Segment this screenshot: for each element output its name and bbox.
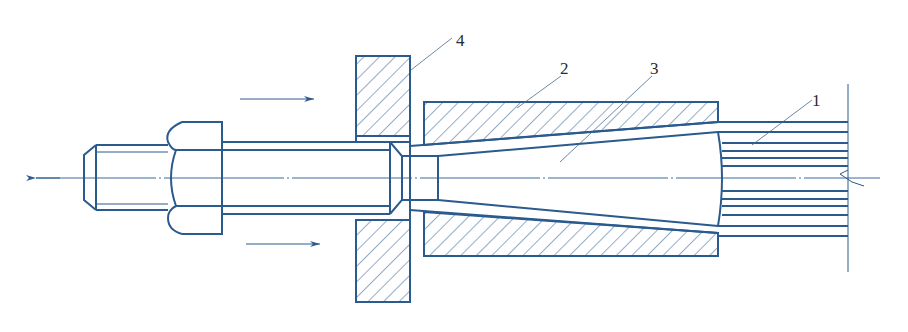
label-4: 4 [456, 31, 465, 50]
label-3: 3 [650, 59, 659, 78]
label-2: 2 [560, 59, 569, 78]
anchorage-diagram: 4 2 3 1 [0, 0, 908, 332]
label-1: 1 [812, 91, 821, 110]
leader-4 [411, 38, 452, 70]
